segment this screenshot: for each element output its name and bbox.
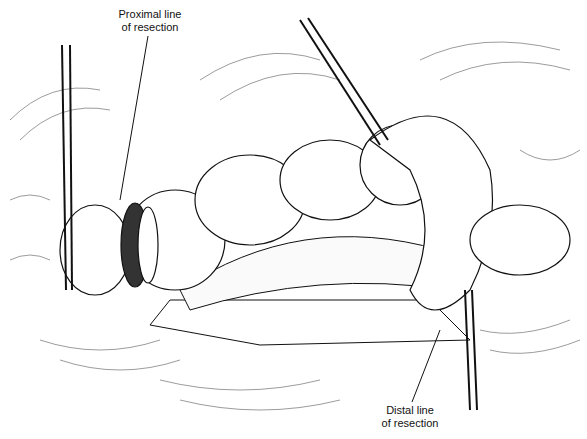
distal-label-line2: of resection: [370, 417, 450, 430]
proximal-label-line1: Proximal line: [110, 8, 190, 21]
distal-label-line1: Distal line: [370, 404, 450, 417]
proximal-label-line2: of resection: [110, 21, 190, 34]
distal-resection-label: Distal line of resection: [370, 404, 450, 430]
proximal-resection-label: Proximal line of resection: [110, 8, 190, 34]
surgical-illustration: [0, 0, 587, 439]
